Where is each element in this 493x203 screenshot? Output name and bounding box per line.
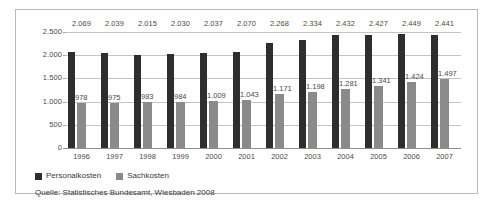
x-axis-tick-label: 2002 bbox=[271, 152, 288, 161]
legend-label: Sachkosten bbox=[127, 171, 169, 181]
x-axis-tick-label: 2001 bbox=[238, 152, 255, 161]
bar-group: 2.4321.281 bbox=[329, 32, 362, 148]
value-label-personalkosten: 2.432 bbox=[336, 20, 355, 28]
bar-group: 2.2681.171 bbox=[263, 32, 296, 148]
legend-item: Sachkosten bbox=[116, 171, 169, 181]
value-label-sachkosten: 1.281 bbox=[339, 80, 358, 88]
chart-panel: 05001.0001.5002.0002.500 2.0699782.03997… bbox=[15, 9, 478, 194]
value-label-sachkosten: 984 bbox=[174, 93, 187, 101]
bar-group: 2.3341.198 bbox=[296, 32, 329, 148]
value-label-personalkosten: 2.039 bbox=[105, 20, 124, 28]
x-axis-tick-label: 2004 bbox=[337, 152, 354, 161]
bar-group: 2.4271.341 bbox=[362, 32, 395, 148]
bar-sachkosten bbox=[143, 102, 152, 148]
bar-sachkosten bbox=[110, 103, 119, 148]
value-label-personalkosten: 2.015 bbox=[138, 20, 157, 28]
value-label-personalkosten: 2.441 bbox=[435, 20, 454, 28]
chart-figure: 05001.0001.5002.0002.500 2.0699782.03997… bbox=[0, 0, 493, 203]
bar-personalkosten bbox=[200, 53, 207, 148]
bar-personalkosten bbox=[101, 53, 108, 148]
value-label-sachkosten: 1.424 bbox=[405, 73, 424, 81]
legend-item: Personalkosten bbox=[35, 171, 101, 181]
x-axis-tick-label: 1998 bbox=[139, 152, 156, 161]
x-axis-tick-label: 2007 bbox=[436, 152, 453, 161]
value-label-sachkosten: 978 bbox=[75, 94, 88, 102]
value-label-personalkosten: 2.334 bbox=[303, 20, 322, 28]
legend-label: Personalkosten bbox=[46, 171, 101, 181]
bar-personalkosten bbox=[365, 35, 372, 148]
bar-personalkosten bbox=[332, 35, 339, 148]
value-label-sachkosten: 1.341 bbox=[372, 77, 391, 85]
bar-personalkosten bbox=[299, 40, 306, 148]
y-axis-tick-label: 2.500 bbox=[28, 28, 62, 36]
bar-personalkosten bbox=[398, 34, 405, 148]
bar-group: 2.0371.009 bbox=[197, 32, 230, 148]
bar-sachkosten bbox=[209, 101, 218, 148]
value-label-sachkosten: 1.171 bbox=[273, 85, 292, 93]
bar-personalkosten bbox=[431, 35, 438, 148]
y-axis: 05001.0001.5002.0002.500 bbox=[22, 32, 62, 148]
bar-sachkosten bbox=[407, 82, 416, 148]
y-axis-tick-label: 1.500 bbox=[28, 74, 62, 82]
gridline bbox=[65, 148, 461, 149]
y-axis-tick-label: 2.000 bbox=[28, 51, 62, 59]
bar-personalkosten bbox=[68, 52, 75, 148]
x-axis-tick-label: 2003 bbox=[304, 152, 321, 161]
legend-swatch bbox=[116, 173, 123, 180]
value-label-sachkosten: 1.009 bbox=[207, 92, 226, 100]
bar-group: 2.069978 bbox=[65, 32, 98, 148]
plot-area: 2.0699782.0399752.0159832.0309842.0371.0… bbox=[65, 32, 461, 148]
legend-swatch bbox=[35, 173, 42, 180]
bar-group: 2.039975 bbox=[98, 32, 131, 148]
value-label-personalkosten: 2.427 bbox=[369, 20, 388, 28]
bar-sachkosten bbox=[341, 89, 350, 148]
value-label-personalkosten: 2.037 bbox=[204, 20, 223, 28]
bar-group: 2.030984 bbox=[164, 32, 197, 148]
y-axis-tick-label: 1.000 bbox=[28, 98, 62, 106]
bar-sachkosten bbox=[374, 86, 383, 148]
value-label-sachkosten: 1.198 bbox=[306, 83, 325, 91]
x-axis-tick-label: 1999 bbox=[172, 152, 189, 161]
bar-personalkosten bbox=[167, 54, 174, 148]
value-label-sachkosten: 975 bbox=[108, 94, 121, 102]
value-label-personalkosten: 2.030 bbox=[171, 20, 190, 28]
value-label-personalkosten: 2.449 bbox=[402, 20, 421, 28]
x-axis: 1996199719981999200020012002200320042005… bbox=[65, 152, 461, 164]
bar-personalkosten bbox=[266, 43, 273, 148]
x-axis-tick-label: 1997 bbox=[106, 152, 123, 161]
value-label-sachkosten: 983 bbox=[141, 93, 154, 101]
x-axis-tick-label: 2006 bbox=[403, 152, 420, 161]
bar-personalkosten bbox=[233, 52, 240, 148]
source-note: Quelle: Statistisches Bundesamt, Wiesbad… bbox=[35, 187, 215, 198]
bar-sachkosten bbox=[308, 92, 317, 148]
bar-sachkosten bbox=[77, 103, 86, 148]
y-axis-tick-label: 500 bbox=[28, 121, 62, 129]
chart-legend: PersonalkostenSachkosten bbox=[35, 171, 178, 181]
bar-personalkosten bbox=[134, 55, 141, 148]
x-axis-tick-label: 1996 bbox=[73, 152, 90, 161]
value-label-sachkosten: 1.497 bbox=[438, 70, 457, 78]
bar-group: 2.4411.497 bbox=[428, 32, 461, 148]
bar-sachkosten bbox=[440, 79, 449, 148]
bar-group: 2.0701.043 bbox=[230, 32, 263, 148]
value-label-personalkosten: 2.069 bbox=[72, 20, 91, 28]
bar-sachkosten bbox=[176, 102, 185, 148]
value-label-personalkosten: 2.268 bbox=[270, 20, 289, 28]
bar-group: 2.015983 bbox=[131, 32, 164, 148]
bar-sachkosten bbox=[242, 100, 251, 148]
bar-group: 2.4491.424 bbox=[395, 32, 428, 148]
x-axis-tick-label: 2000 bbox=[205, 152, 222, 161]
bar-sachkosten bbox=[275, 94, 284, 148]
value-label-sachkosten: 1.043 bbox=[240, 91, 259, 99]
x-axis-tick-label: 2005 bbox=[370, 152, 387, 161]
value-label-personalkosten: 2.070 bbox=[237, 20, 256, 28]
y-axis-tick-label: 0 bbox=[28, 144, 62, 152]
